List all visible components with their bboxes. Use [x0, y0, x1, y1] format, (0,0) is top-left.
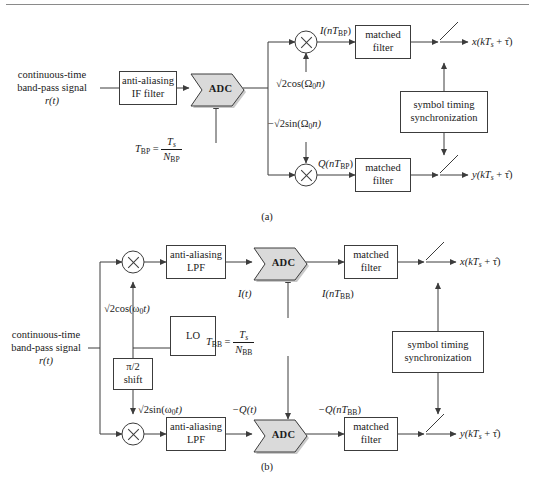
sig-b-q-pre: −Q(nT — [318, 404, 347, 415]
output-label-b-y: y(kTs + τ̂) — [460, 428, 501, 441]
out-b-x-pre: x(kT — [460, 256, 479, 267]
block-matched-filter-b-i[interactable]: matched filter — [344, 245, 398, 279]
mf-a-i-line1: matched — [365, 29, 401, 42]
input-label-b-line3: r(t) — [11, 354, 81, 367]
sync-b-line1: symbol timing — [404, 339, 471, 352]
carrier-b-q-tail: t) — [175, 404, 181, 415]
clock-b-den-sub: BB — [242, 348, 252, 357]
multiplier-b-q[interactable] — [122, 423, 145, 446]
signal-label-b-q-digital: −Q(nTBB) — [318, 404, 361, 417]
input-label-b-line2: band-pass signal — [11, 342, 81, 355]
lpf-q-line1: anti-aliasing — [170, 421, 222, 434]
mf-b-q-line2: filter — [353, 434, 389, 447]
clock-a-eq: = — [153, 143, 159, 154]
output-label-b-x: x(kTs + τ̂) — [460, 256, 501, 269]
clock-a-num-sub: s — [173, 140, 176, 149]
carrier-a-q-tail: n) — [312, 118, 321, 129]
sig-a-q-pre: Q(nT — [318, 158, 340, 169]
carrier-label-b-i: √2cos(ω0t) — [104, 303, 150, 316]
clock-b-fraction: Ts NBB — [233, 328, 254, 358]
sig-b-q-sub: BB — [347, 408, 357, 417]
multiplier-a-i[interactable] — [295, 31, 318, 54]
block-adc-a[interactable]: ADC — [188, 69, 244, 107]
block-matched-filter-a-q[interactable]: matched filter — [355, 158, 411, 192]
out-b-x-post: + τ̂) — [482, 256, 501, 267]
caption-a: (a) — [261, 211, 273, 222]
carrier-b-i-body: cos(ω — [115, 303, 139, 314]
figure-canvas: continuous-time band-pass signal r(t) an… — [0, 0, 535, 486]
signal-label-b-i-digital: I(nTBB) — [322, 288, 354, 301]
carrier-a-q-radical: √2 — [274, 118, 285, 129]
lpf-i-line1: anti-aliasing — [170, 249, 222, 262]
mf-b-i-line1: matched — [353, 249, 389, 262]
input-label-a-line2: band-pass signal — [17, 82, 87, 95]
clock-b-eq: = — [225, 336, 231, 347]
signal-label-b-i-analog: I(t) — [238, 288, 251, 301]
sig-a-i-sub: BP — [338, 29, 347, 38]
out-b-y-pre: y(kT — [460, 428, 479, 439]
out-a-y-post: + τ̂) — [494, 169, 513, 180]
block-antialiasing-if-filter[interactable]: anti-aliasing IF filter — [119, 71, 177, 105]
block-symbol-timing-sync-a[interactable]: symbol timing synchronization — [400, 91, 488, 133]
clock-b-lhs-sub: BB — [212, 340, 222, 349]
adc-b-i-label: ADC — [251, 243, 307, 281]
block-antialiasing-lpf-q[interactable]: anti-aliasing LPF — [166, 417, 226, 451]
antialias-if-line2: IF filter — [122, 88, 174, 101]
sig-b-i-sub: BB — [340, 292, 350, 301]
sync-a-line1: symbol timing — [410, 99, 477, 112]
antialias-if-line1: anti-aliasing — [122, 75, 174, 88]
clock-label-a: TBP = Ts NBP — [135, 135, 182, 165]
mf-a-q-line2: filter — [365, 175, 401, 188]
out-a-x-post: + τ̂) — [494, 36, 513, 47]
mf-b-q-line1: matched — [353, 421, 389, 434]
multiplier-b-i[interactable] — [122, 251, 145, 274]
block-adc-b-q[interactable]: ADC — [251, 415, 307, 453]
clock-a-den-sub: BP — [170, 155, 179, 164]
phase-shift-line1: π/2 — [124, 361, 143, 374]
out-b-y-post: + τ̂) — [482, 428, 501, 439]
caption-b: (b) — [261, 461, 273, 472]
mf-a-i-line2: filter — [365, 42, 401, 55]
block-antialiasing-lpf-i[interactable]: anti-aliasing LPF — [166, 245, 226, 279]
signal-label-b-q-analog: −Q(t) — [232, 404, 257, 417]
block-adc-b-i[interactable]: ADC — [251, 243, 307, 281]
carrier-label-b-q: √2sin(ω0t) — [138, 404, 182, 417]
carrier-b-i-tail: t) — [143, 303, 149, 314]
input-label-a-line3: r(t) — [17, 94, 87, 107]
clock-b-num-sub: s — [245, 333, 248, 342]
sig-a-q-post: ) — [349, 158, 353, 169]
sig-a-i-pre: I(nT — [320, 25, 338, 36]
lpf-q-line2: LPF — [170, 434, 222, 447]
carrier-a-i-tail: n) — [316, 78, 325, 89]
signal-label-a-i: I(nTBP) — [320, 25, 351, 38]
carrier-a-i-body: cos(Ω — [287, 78, 312, 89]
adc-b-q-label: ADC — [251, 415, 307, 453]
adc-a-label: ADC — [188, 69, 244, 107]
mf-a-q-line1: matched — [365, 162, 401, 175]
input-label-b-line1: continuous-time — [11, 329, 81, 342]
input-label-a: continuous-time band-pass signal r(t) — [17, 69, 87, 107]
sig-b-i-post: ) — [350, 288, 354, 299]
clock-a-fraction: Ts NBP — [161, 135, 181, 165]
input-label-b: continuous-time band-pass signal r(t) — [11, 329, 81, 367]
out-a-y-pre: y(kT — [472, 169, 491, 180]
carrier-b-i-radical: √2 — [104, 303, 115, 314]
sig-b-q-post: ) — [357, 404, 361, 415]
sig-a-i-post: ) — [347, 25, 351, 36]
block-matched-filter-a-i[interactable]: matched filter — [355, 25, 411, 59]
block-phase-shift[interactable]: π/2 shift — [113, 358, 153, 390]
carrier-label-a-q: −√2sin(Ω0n) — [268, 118, 321, 131]
carrier-b-q-body: sin(ω — [149, 404, 172, 415]
lpf-i-line2: LPF — [170, 262, 222, 275]
carrier-a-i-radical: √2 — [276, 78, 287, 89]
input-label-a-line1: continuous-time — [17, 69, 87, 82]
clock-label-b: TBB = Ts NBB — [206, 328, 254, 358]
block-symbol-timing-sync-b[interactable]: symbol timing synchronization — [392, 331, 484, 373]
carrier-a-q-body: sin(Ω — [285, 118, 309, 129]
out-a-x-pre: x(kT — [472, 36, 491, 47]
carrier-label-a-i: √2cos(Ω0n) — [276, 78, 325, 91]
block-matched-filter-b-q[interactable]: matched filter — [344, 417, 398, 451]
output-label-a-x: x(kTs + τ̂) — [472, 36, 513, 49]
output-label-a-y: y(kTs + τ̂) — [472, 169, 513, 182]
multiplier-a-q[interactable] — [295, 164, 318, 187]
